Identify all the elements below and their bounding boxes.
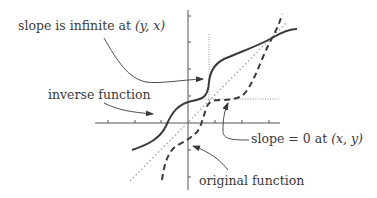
identity-line: [130, 22, 287, 181]
arrow-inverse-function: [104, 103, 153, 114]
slope-zero-point: (x, y): [331, 131, 363, 146]
inverse-function-label: inverse function: [48, 89, 151, 102]
original-function-label: original function: [199, 175, 304, 188]
arrow-original-function: [193, 146, 228, 170]
original-function-curve: [162, 14, 282, 180]
arrow-slope-zero: [223, 103, 249, 140]
slope-zero-label: slope = 0 at (x, y): [251, 133, 363, 146]
slope-infinite-point: (y, x): [135, 18, 165, 33]
slope-zero-text: slope = 0 at: [251, 131, 331, 146]
slope-infinite-text: slope is infinite at: [18, 18, 135, 33]
slope-infinite-label: slope is infinite at (y, x): [18, 20, 165, 33]
